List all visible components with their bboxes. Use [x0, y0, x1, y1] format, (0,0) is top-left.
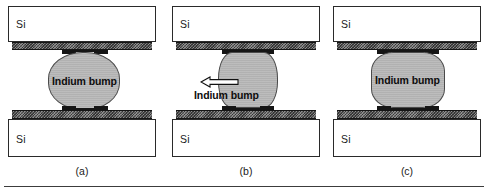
figure-bottom-rule: [4, 186, 484, 187]
panel-a-indium-bump-label: Indium bump: [52, 76, 117, 87]
panel-a-top-metal-layer: [12, 42, 152, 50]
panel-b: Si Indium bump Si: [172, 0, 320, 162]
panel-a-bottom-substrate: Si: [8, 119, 156, 157]
panel-b-bottom-substrate-label: Si: [180, 134, 190, 145]
panel-c-top-substrate-label: Si: [341, 19, 351, 30]
panel-b-arrow-container: [200, 76, 240, 88]
panel-a-bottom-substrate-label: Si: [16, 134, 26, 145]
panel-b-indium-bump-label: Indium bump: [194, 90, 259, 101]
panel-a-top-substrate-label: Si: [16, 19, 26, 30]
panel-b-top-substrate: Si: [172, 6, 320, 42]
panel-c-bottom-metal-layer: [337, 110, 477, 119]
panel-c-top-metal-layer: [337, 42, 477, 50]
left-arrow-outline-icon: [200, 76, 240, 88]
panel-b-bottom-substrate: Si: [172, 119, 320, 157]
panel-c-bottom-substrate: Si: [333, 119, 481, 157]
panel-c-bottom-substrate-label: Si: [341, 134, 351, 145]
panel-a-bottom-metal-layer: [12, 110, 152, 119]
panel-a-caption: (a): [8, 166, 156, 177]
panel-c-indium-bump-label: Indium bump: [375, 75, 440, 86]
panel-b-caption: (b): [172, 166, 320, 177]
indium-bump-bonding-figure: Si Indium bump Si Si: [0, 0, 488, 192]
panel-b-top-substrate-label: Si: [180, 19, 190, 30]
panel-c-top-substrate: Si: [333, 6, 481, 42]
panel-c: Si Indium bump Si: [333, 0, 481, 162]
panel-b-top-metal-layer: [176, 42, 316, 50]
panel-a: Si Indium bump Si: [8, 0, 156, 162]
panel-a-top-substrate: Si: [8, 6, 156, 42]
panel-b-bottom-metal-layer: [176, 110, 316, 119]
panel-c-caption: (c): [333, 166, 481, 177]
